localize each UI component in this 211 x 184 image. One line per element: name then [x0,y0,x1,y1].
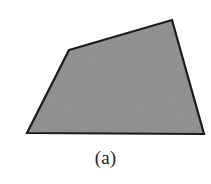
figure-caption-label: (a) [0,147,211,169]
figure-panel: (a) [0,0,211,184]
